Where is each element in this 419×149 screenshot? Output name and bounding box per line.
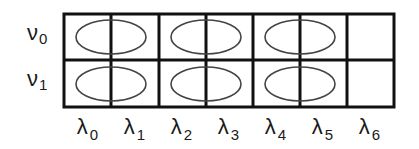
row-index: 0 xyxy=(39,30,47,47)
row-symbol: ν xyxy=(27,66,38,91)
grid xyxy=(64,14,394,107)
row-index: 1 xyxy=(39,76,47,93)
col-label-lambda0: λ0 xyxy=(64,116,111,142)
col-index: 4 xyxy=(278,126,286,143)
col-label-lambda5: λ5 xyxy=(299,116,346,142)
row-label-nu1: ν1 xyxy=(27,68,47,92)
row-label-nu0: ν0 xyxy=(27,22,47,46)
col-symbol: λ xyxy=(312,114,323,139)
row-symbol: ν xyxy=(27,20,38,45)
col-label-lambda3: λ3 xyxy=(205,116,252,142)
col-index: 6 xyxy=(372,126,380,143)
col-index: 0 xyxy=(90,126,98,143)
col-label-lambda1: λ1 xyxy=(111,116,158,142)
col-label-lambda2: λ2 xyxy=(158,116,205,142)
col-index: 5 xyxy=(325,126,333,143)
col-symbol: λ xyxy=(77,114,88,139)
col-symbol: λ xyxy=(171,114,182,139)
col-index: 3 xyxy=(231,126,239,143)
col-symbol: λ xyxy=(265,114,276,139)
col-symbol: λ xyxy=(218,114,229,139)
col-index: 2 xyxy=(184,126,192,143)
col-symbol: λ xyxy=(359,114,370,139)
col-label-lambda4: λ4 xyxy=(252,116,299,142)
col-index: 1 xyxy=(137,126,145,143)
col-label-lambda6: λ6 xyxy=(346,116,393,142)
col-symbol: λ xyxy=(124,114,135,139)
